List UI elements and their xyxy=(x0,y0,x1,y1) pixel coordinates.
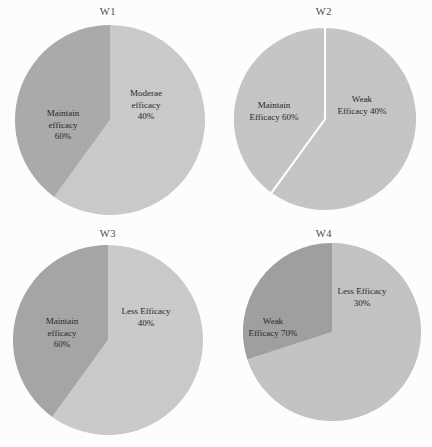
pie-panel-w3: W3 Maintain efficacy 60% Less Efficacy 4… xyxy=(0,224,216,447)
pie-panel-w1: W1 Maintain efficacy 60% Moderae efficac… xyxy=(0,0,216,223)
pie-svg-w4 xyxy=(242,242,422,422)
pie-panel-w2: W2 Maintain Efficacy 60% Weak Efficacy 4… xyxy=(216,0,432,223)
pie-chart-figure: W1 Maintain efficacy 60% Moderae efficac… xyxy=(0,0,432,447)
pie-chart-w2 xyxy=(232,26,418,212)
pie-svg-w2 xyxy=(232,26,418,212)
panel-title-w1: W1 xyxy=(0,6,216,17)
panel-title-w2: W2 xyxy=(216,6,432,17)
panel-title-w3: W3 xyxy=(0,228,216,239)
panel-title-w4: W4 xyxy=(216,228,432,239)
pie-chart-w1 xyxy=(14,24,206,216)
pie-chart-w3 xyxy=(12,244,204,436)
pie-svg-w1 xyxy=(14,24,206,216)
pie-panel-w4: W4 Weak Efficacy 70% Less Efficacy 30% xyxy=(216,224,432,447)
pie-chart-w4 xyxy=(242,242,422,422)
pie-svg-w3 xyxy=(12,244,204,436)
